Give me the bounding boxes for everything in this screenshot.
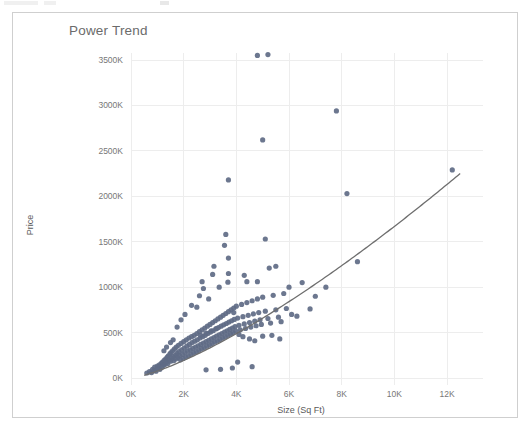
scatter-point[interactable] bbox=[198, 333, 203, 338]
scatter-point[interactable] bbox=[203, 330, 208, 335]
scatter-point[interactable] bbox=[210, 272, 215, 277]
scatter-point[interactable] bbox=[281, 291, 286, 296]
scatter-point[interactable] bbox=[222, 243, 227, 248]
y-tick-label: 0K bbox=[113, 373, 124, 383]
scatter-point[interactable] bbox=[206, 296, 211, 301]
scatter-point[interactable] bbox=[214, 326, 219, 331]
y-tick-label: 3000K bbox=[98, 100, 123, 110]
cropped-toolbar-strip bbox=[0, 0, 529, 11]
x-tick-label: 4K bbox=[231, 389, 242, 399]
scatter-point[interactable] bbox=[355, 259, 360, 264]
scatter-point[interactable] bbox=[246, 313, 251, 318]
scatter-point[interactable] bbox=[269, 333, 274, 338]
scatter-point[interactable] bbox=[250, 298, 255, 303]
scatter-point[interactable] bbox=[218, 367, 223, 372]
scatter-point[interactable] bbox=[260, 295, 265, 300]
scatter-point[interactable] bbox=[225, 280, 230, 285]
scatter-point[interactable] bbox=[259, 322, 264, 327]
scatter-point[interactable] bbox=[277, 336, 282, 341]
scatter-point[interactable] bbox=[168, 340, 173, 345]
scatter-point[interactable] bbox=[209, 328, 214, 333]
scatter-point[interactable] bbox=[203, 367, 208, 372]
scatter-point[interactable] bbox=[223, 232, 228, 237]
scatter-point[interactable] bbox=[194, 305, 199, 310]
scatter-point[interactable] bbox=[217, 285, 222, 290]
y-tick-label: 500K bbox=[103, 328, 123, 338]
scatter-point[interactable] bbox=[236, 323, 241, 328]
toolbar-ghost-item-2 bbox=[44, 1, 56, 5]
scatter-point[interactable] bbox=[231, 310, 236, 315]
x-axis-tick-labels: 0K2K4K6K8K10K12K bbox=[126, 389, 455, 399]
y-tick-label: 2000K bbox=[98, 191, 123, 201]
scatter-point[interactable] bbox=[244, 279, 249, 284]
scatter-point[interactable] bbox=[284, 306, 289, 311]
scatter-point[interactable] bbox=[226, 255, 231, 260]
x-tick-label: 0K bbox=[126, 389, 137, 399]
scatter-point[interactable] bbox=[313, 294, 318, 299]
scatter-point[interactable] bbox=[256, 310, 261, 315]
scatter-point[interactable] bbox=[211, 264, 216, 269]
scatter-point[interactable] bbox=[265, 52, 270, 57]
scatter-point[interactable] bbox=[235, 315, 240, 320]
scatter-point[interactable] bbox=[267, 265, 272, 270]
scatter-point[interactable] bbox=[182, 312, 187, 317]
y-axis-title: Price bbox=[25, 215, 35, 236]
scatter-point[interactable] bbox=[255, 279, 260, 284]
data-points-group[interactable] bbox=[144, 52, 455, 376]
scatter-point[interactable] bbox=[234, 304, 239, 309]
scatter-point[interactable] bbox=[174, 325, 179, 330]
scatter-point[interactable] bbox=[244, 300, 249, 305]
scatter-plot-svg[interactable]: 0K500K1000K1500K2000K2500K3000K3500K 0K2… bbox=[13, 13, 519, 419]
chart-panel: Power Trend 0K500K1000K1500K2000K2500K30… bbox=[12, 12, 518, 418]
scatter-point[interactable] bbox=[279, 319, 284, 324]
plot-area[interactable]: 0K500K1000K1500K2000K2500K3000K3500K 0K2… bbox=[13, 13, 519, 419]
scatter-point[interactable] bbox=[307, 306, 312, 311]
y-tick-label: 3500K bbox=[98, 55, 123, 65]
scatter-point[interactable] bbox=[286, 285, 291, 290]
scatter-point[interactable] bbox=[226, 177, 231, 182]
scatter-point[interactable] bbox=[260, 334, 265, 339]
scatter-point[interactable] bbox=[235, 360, 240, 365]
toolbar-ghost-item-3 bbox=[160, 1, 169, 5]
toolbar-ghost-item-1 bbox=[4, 1, 38, 5]
scatter-point[interactable] bbox=[189, 303, 194, 308]
scatter-point[interactable] bbox=[268, 320, 273, 325]
scatter-point[interactable] bbox=[334, 108, 339, 113]
scatter-point[interactable] bbox=[178, 317, 183, 322]
scatter-point[interactable] bbox=[230, 365, 235, 370]
scatter-point[interactable] bbox=[344, 191, 349, 196]
scatter-point[interactable] bbox=[450, 167, 455, 172]
scatter-point[interactable] bbox=[251, 311, 256, 316]
scatter-point[interactable] bbox=[255, 53, 260, 58]
scatter-point[interactable] bbox=[226, 271, 231, 276]
scatter-point[interactable] bbox=[197, 293, 202, 298]
scatter-point[interactable] bbox=[161, 348, 166, 353]
scatter-point[interactable] bbox=[294, 314, 299, 319]
scatter-point[interactable] bbox=[263, 236, 268, 241]
scatter-point[interactable] bbox=[242, 321, 247, 326]
scatter-point[interactable] bbox=[323, 285, 328, 290]
scatter-point[interactable] bbox=[247, 336, 252, 341]
screenshot-root: Power Trend 0K500K1000K1500K2000K2500K30… bbox=[0, 0, 529, 430]
y-tick-label: 1500K bbox=[98, 237, 123, 247]
scatter-point[interactable] bbox=[271, 293, 276, 298]
scatter-point[interactable] bbox=[289, 312, 294, 317]
scatter-point[interactable] bbox=[273, 264, 278, 269]
scatter-point[interactable] bbox=[201, 286, 206, 291]
scatter-point[interactable] bbox=[260, 137, 265, 142]
scatter-point[interactable] bbox=[240, 314, 245, 319]
scatter-point[interactable] bbox=[255, 296, 260, 301]
y-axis-tick-labels: 0K500K1000K1500K2000K2500K3000K3500K bbox=[98, 55, 123, 383]
scatter-point[interactable] bbox=[300, 280, 305, 285]
scatter-point[interactable] bbox=[263, 309, 268, 314]
scatter-point[interactable] bbox=[240, 334, 245, 339]
x-tick-label: 2K bbox=[178, 389, 189, 399]
x-tick-label: 6K bbox=[284, 389, 295, 399]
x-tick-label: 12K bbox=[439, 389, 454, 399]
scatter-point[interactable] bbox=[239, 302, 244, 307]
scatter-point[interactable] bbox=[276, 315, 281, 320]
scatter-point[interactable] bbox=[242, 273, 247, 278]
scatter-point[interactable] bbox=[250, 364, 255, 369]
scatter-point[interactable] bbox=[252, 338, 257, 343]
scatter-point[interactable] bbox=[200, 279, 205, 284]
